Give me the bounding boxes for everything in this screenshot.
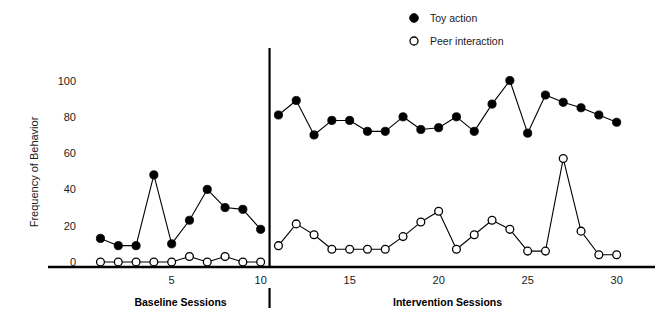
phase-label: Baseline Sessions bbox=[134, 296, 226, 308]
data-point-marker bbox=[417, 218, 425, 226]
phase-label: Intervention Sessions bbox=[393, 296, 502, 308]
data-point-marker bbox=[524, 129, 532, 137]
data-point-marker bbox=[186, 253, 194, 261]
y-tick-label: 20 bbox=[64, 220, 76, 232]
y-axis-ticks: 020406080100 bbox=[58, 75, 76, 268]
data-point-marker bbox=[542, 247, 550, 255]
x-tick-label: 25 bbox=[522, 274, 534, 286]
data-point-marker bbox=[221, 253, 229, 261]
x-tick-label: 15 bbox=[344, 274, 356, 286]
data-point-marker bbox=[292, 96, 300, 104]
data-point-marker bbox=[363, 127, 371, 135]
data-point-marker bbox=[114, 258, 122, 266]
data-point-marker bbox=[150, 171, 158, 179]
x-tick-label: 20 bbox=[433, 274, 445, 286]
y-tick-label: 100 bbox=[58, 75, 76, 87]
data-point-marker bbox=[168, 258, 176, 266]
y-tick-label: 60 bbox=[64, 147, 76, 159]
data-point-marker bbox=[310, 231, 318, 239]
data-point-marker bbox=[506, 225, 514, 233]
y-axis-title-text: Frequency of Behavior bbox=[28, 116, 40, 227]
data-point-marker bbox=[613, 251, 621, 259]
data-point-marker bbox=[346, 245, 354, 253]
data-point-marker bbox=[613, 118, 621, 126]
data-point-marker bbox=[452, 113, 460, 121]
data-point-marker bbox=[488, 216, 496, 224]
data-point-marker bbox=[435, 124, 443, 132]
data-point-marker bbox=[453, 245, 461, 253]
axis-lines bbox=[48, 48, 655, 308]
data-point-marker bbox=[559, 155, 567, 163]
data-point-marker bbox=[417, 125, 425, 133]
legend-marker-open-circle bbox=[410, 37, 418, 45]
data-point-marker bbox=[488, 100, 496, 108]
data-point-marker bbox=[132, 258, 140, 266]
series-plots bbox=[96, 76, 620, 265]
data-point-marker bbox=[96, 234, 104, 242]
data-point-marker bbox=[257, 225, 265, 233]
data-point-marker bbox=[381, 245, 389, 253]
data-point-marker bbox=[470, 127, 478, 135]
data-point-marker bbox=[595, 111, 603, 119]
data-point-marker bbox=[114, 242, 122, 250]
y-tick-label: 40 bbox=[64, 183, 76, 195]
series-line-segment bbox=[278, 159, 616, 255]
data-point-marker bbox=[168, 240, 176, 248]
data-point-marker bbox=[595, 251, 603, 259]
series-line-segment bbox=[100, 175, 260, 246]
x-tick-label: 30 bbox=[611, 274, 623, 286]
data-point-marker bbox=[577, 104, 585, 112]
data-point-marker bbox=[399, 113, 407, 121]
legend-item-label: Toy action bbox=[430, 12, 477, 24]
series-filled-circle bbox=[96, 76, 620, 249]
series-open-circle bbox=[97, 155, 621, 266]
data-point-marker bbox=[577, 227, 585, 235]
data-point-marker bbox=[524, 247, 532, 255]
legend-item-label: Peer interaction bbox=[430, 35, 504, 47]
phase-labels: Baseline SessionsIntervention Sessions bbox=[134, 296, 502, 308]
data-point-marker bbox=[470, 231, 478, 239]
legend-marker-filled-circle bbox=[410, 14, 419, 23]
y-axis-title: Frequency of Behavior bbox=[28, 116, 40, 227]
data-point-marker bbox=[185, 216, 193, 224]
data-point-marker bbox=[328, 245, 336, 253]
x-tick-label: 10 bbox=[255, 274, 267, 286]
x-tick-label: 5 bbox=[169, 274, 175, 286]
data-point-marker bbox=[150, 258, 158, 266]
x-axis-ticks: 51015202530 bbox=[169, 274, 623, 286]
chart-canvas: Toy actionPeer interaction 020406080100 … bbox=[0, 0, 664, 319]
data-point-marker bbox=[203, 185, 211, 193]
data-point-marker bbox=[221, 203, 229, 211]
data-point-marker bbox=[399, 233, 407, 241]
data-point-marker bbox=[364, 245, 372, 253]
data-point-marker bbox=[132, 242, 140, 250]
data-point-marker bbox=[381, 127, 389, 135]
y-tick-label: 80 bbox=[64, 111, 76, 123]
data-point-marker bbox=[310, 131, 318, 139]
chart-legend: Toy actionPeer interaction bbox=[410, 12, 504, 47]
data-point-marker bbox=[203, 258, 211, 266]
series-line-segment bbox=[100, 257, 260, 262]
data-point-marker bbox=[97, 258, 105, 266]
data-point-marker bbox=[328, 116, 336, 124]
data-point-marker bbox=[275, 242, 283, 250]
behavior-frequency-chart: Toy actionPeer interaction 020406080100 … bbox=[0, 0, 664, 319]
data-point-marker bbox=[346, 116, 354, 124]
data-point-marker bbox=[292, 220, 300, 228]
data-point-marker bbox=[541, 91, 549, 99]
data-point-marker bbox=[257, 258, 265, 266]
data-point-marker bbox=[435, 207, 443, 215]
data-point-marker bbox=[239, 205, 247, 213]
series-line-segment bbox=[278, 81, 616, 135]
data-point-marker bbox=[274, 111, 282, 119]
data-point-marker bbox=[559, 98, 567, 106]
data-point-marker bbox=[506, 76, 514, 84]
data-point-marker bbox=[239, 258, 247, 266]
